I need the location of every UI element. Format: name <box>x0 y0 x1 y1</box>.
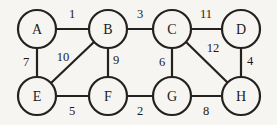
node-label-c: C <box>167 22 176 37</box>
edge-weights-layer: 131171096124528 <box>23 7 254 118</box>
nodes-layer: ABCDEFGH <box>18 10 260 115</box>
edge-weight-c-d: 11 <box>200 7 212 21</box>
edge-weight-b-c: 3 <box>137 7 143 21</box>
node-label-e: E <box>33 89 42 104</box>
edge-weight-c-h: 12 <box>207 41 220 55</box>
edge-weight-d-h: 4 <box>247 54 254 68</box>
node-label-h: H <box>236 89 246 104</box>
edge-weight-a-e: 7 <box>23 55 29 69</box>
edge-weight-a-b: 1 <box>69 7 75 21</box>
node-label-f: F <box>104 89 112 104</box>
edge-weight-c-g: 6 <box>159 55 165 69</box>
node-label-g: G <box>167 89 177 104</box>
edge-weight-f-g: 2 <box>137 104 143 118</box>
edge-weight-g-h: 8 <box>203 104 209 118</box>
graph-figure: ABCDEFGH 131171096124528 <box>0 0 277 125</box>
node-label-b: B <box>103 22 112 37</box>
edge-weight-b-f: 9 <box>113 53 119 67</box>
edge-weight-b-e: 10 <box>57 50 70 64</box>
node-label-a: A <box>32 22 43 37</box>
node-label-d: D <box>236 22 246 37</box>
graph-canvas: ABCDEFGH 131171096124528 <box>0 0 277 125</box>
edge-weight-e-f: 5 <box>69 104 75 118</box>
